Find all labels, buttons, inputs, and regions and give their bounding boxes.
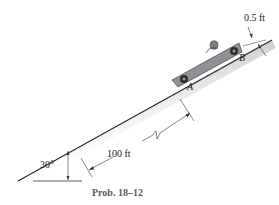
wheel-b — [230, 47, 238, 55]
angle-label: 30° — [40, 160, 54, 170]
point-b-label: B — [239, 53, 245, 63]
distance-label: 100 ft — [107, 149, 131, 159]
height-label: 0.5 ft — [244, 13, 265, 23]
figure-caption: Prob. 18–12 — [92, 187, 143, 198]
incline-plane — [18, 40, 276, 186]
diagram-canvas — [0, 0, 279, 205]
point-a-label: A — [187, 82, 193, 92]
